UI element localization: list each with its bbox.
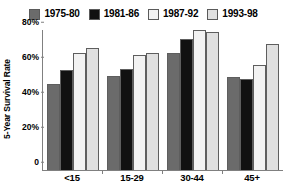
legend-label-1993-98: 1993-98 <box>222 9 257 19</box>
bar <box>73 53 86 170</box>
bar <box>180 39 193 170</box>
legend-label-1981-86: 1981-86 <box>104 9 139 19</box>
y-axis-tick: 20% <box>22 122 43 131</box>
y-axis-tick: 40% <box>22 87 43 96</box>
bar <box>253 65 266 170</box>
bar <box>206 32 219 170</box>
bars <box>227 30 279 170</box>
bar <box>120 69 133 171</box>
bars <box>47 30 99 170</box>
legend-item-1981-86: 1981-86 <box>89 9 139 20</box>
legend-swatch-1987-92 <box>148 9 159 20</box>
x-axis-label: 45+ <box>222 173 282 189</box>
bar-chart: 1975-80 1981-86 1987-92 1993-98 5-Year S… <box>0 0 287 194</box>
bars <box>167 30 219 170</box>
bar <box>193 30 206 170</box>
legend-swatch-1981-86 <box>89 9 100 20</box>
bar-group <box>43 30 103 170</box>
bar <box>240 79 253 170</box>
y-axis-title: 5-Year Survival Rate <box>2 59 12 139</box>
legend-swatch-1993-98 <box>207 9 218 20</box>
legend-item-1987-92: 1987-92 <box>148 9 198 20</box>
bar <box>266 44 279 170</box>
bar-group <box>223 30 283 170</box>
bar <box>133 55 146 171</box>
y-axis-title-wrap: 5-Year Survival Rate <box>0 26 14 171</box>
legend-label-1987-92: 1987-92 <box>163 9 198 19</box>
x-axis-labels: <1515-2930-4445+ <box>42 173 282 189</box>
plot-area: 020%40%60%80% <box>42 30 283 171</box>
y-axis-tick: 0 <box>34 157 43 166</box>
bar-group <box>163 30 223 170</box>
x-axis-label: <15 <box>42 173 102 189</box>
bar <box>86 48 99 171</box>
bar <box>167 53 180 170</box>
bar-group <box>103 30 163 170</box>
bar-groups <box>43 30 283 170</box>
bar <box>146 53 159 170</box>
x-axis-label: 30-44 <box>162 173 222 189</box>
y-axis-tick: 60% <box>22 52 43 61</box>
bar <box>227 77 240 170</box>
bar <box>47 84 60 170</box>
bar <box>60 70 73 170</box>
bars <box>107 30 159 170</box>
legend-item-1993-98: 1993-98 <box>207 9 257 20</box>
y-axis-tick: 80% <box>22 17 43 26</box>
bar <box>107 76 120 171</box>
x-axis-label: 15-29 <box>102 173 162 189</box>
legend-label-1975-80: 1975-80 <box>44 9 79 19</box>
